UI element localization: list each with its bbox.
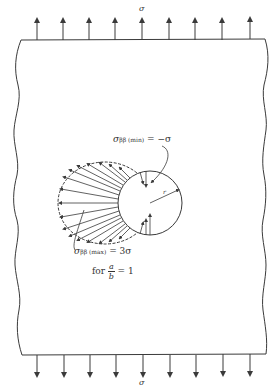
plate-left-wavy-edge bbox=[14, 40, 22, 355]
max-stress-label: σββ (max) = 3σ bbox=[74, 246, 131, 256]
aspect-ratio-label: for ab = 1 bbox=[92, 262, 134, 281]
plate-bottom-edge bbox=[22, 354, 266, 355]
min-stress-subscript: ββ (min) bbox=[119, 136, 144, 143]
ratio-fraction: ab bbox=[108, 262, 115, 281]
applied-stress-label-top: σ bbox=[139, 4, 144, 13]
bottom-tension-arrows bbox=[37, 354, 250, 375]
max-stress-subscript: ββ (max) bbox=[80, 248, 106, 255]
top-tension-arrows bbox=[37, 19, 250, 40]
max-stress-leader bbox=[74, 210, 84, 250]
ratio-numerator: a bbox=[108, 262, 115, 272]
min-stress-label: σββ (min) = −σ bbox=[113, 134, 171, 144]
plate-top-edge bbox=[21, 39, 265, 40]
ratio-prefix: for bbox=[92, 266, 108, 276]
min-stress-value: = −σ bbox=[144, 134, 171, 144]
stress-diagram: r bbox=[0, 0, 278, 388]
plate-right-wavy-edge bbox=[262, 39, 268, 354]
applied-stress-label-bottom: σ bbox=[139, 378, 144, 387]
max-stress-value: = 3σ bbox=[106, 246, 131, 256]
ratio-value: = 1 bbox=[115, 266, 134, 276]
ratio-denominator: b bbox=[108, 272, 115, 281]
